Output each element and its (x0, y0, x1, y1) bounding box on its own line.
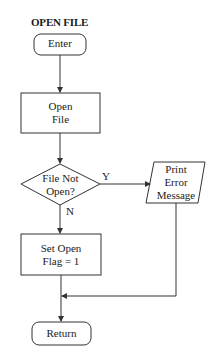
return-label: Return (32, 327, 91, 340)
enter-label: Enter (34, 37, 86, 50)
open-file-label: Open File (21, 100, 100, 126)
decision-label: File Not Open? (21, 172, 100, 198)
no-label: N (66, 205, 74, 217)
print-error-label: Print Error Message (148, 163, 204, 202)
set-flag-label: Set Open Flag = 1 (21, 242, 101, 268)
yes-label: Y (102, 170, 110, 182)
